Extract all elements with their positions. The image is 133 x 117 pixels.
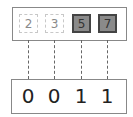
bit-1: 0 [18,83,38,109]
element-cell-5: 5 [72,14,91,33]
element-cell-7: 7 [98,14,117,33]
element-value: 3 [51,17,59,31]
bit-4: 1 [97,83,117,109]
connector-line-2 [54,40,55,79]
element-cell-2: 2 [19,14,38,33]
connector-line-3 [81,40,82,79]
connector-line-1 [28,40,29,79]
connector-line-4 [107,40,108,79]
element-value: 5 [78,17,86,31]
bit-2: 0 [44,83,64,109]
element-value: 2 [25,17,33,31]
element-value: 7 [104,17,112,31]
element-cell-3: 3 [45,14,64,33]
bit-3: 1 [71,83,91,109]
